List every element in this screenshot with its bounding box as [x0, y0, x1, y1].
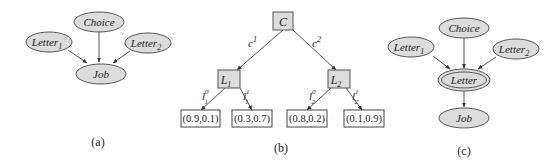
caption-c: (c) [457, 144, 470, 158]
leaf-4: (0.1,0.9) [344, 110, 384, 127]
node-c-letter1: Letter1 [388, 37, 434, 57]
node-c-job-label: Job [456, 112, 472, 124]
node-c-letter-deterministic: Letter [438, 69, 490, 91]
edge-label-l1-0: l01 [202, 88, 209, 106]
edge-label-l2-0: l02 [309, 88, 316, 106]
leaf-3-label: (0.8,0.2) [289, 113, 325, 125]
leaf-1: (0.9,0.1) [181, 110, 220, 127]
node-root-c: C [273, 12, 293, 30]
edge-c-l1 [237, 30, 283, 70]
node-c-letter-label: Letter [450, 74, 478, 86]
edge-letter1-job [68, 50, 87, 63]
figure-canvas: Choice Letter1 Letter2 Job (a) c1 c2 l01… [0, 0, 560, 167]
node-choice: Choice [74, 12, 124, 32]
edge-label-l2-1: l12 [352, 88, 359, 106]
node-l1: L1 [218, 70, 240, 89]
node-l2: L2 [328, 70, 350, 89]
edge-letter1-letter [433, 56, 450, 69]
edge-letter2-job [113, 51, 130, 63]
node-choice-label: Choice [83, 16, 114, 28]
edge-c-l2 [293, 30, 336, 70]
edge-letter2-letter [478, 57, 496, 69]
caption-b: (b) [274, 141, 288, 155]
edge-label-c1: c1 [248, 35, 257, 49]
node-job-label: Job [93, 68, 109, 80]
leaf-2: (0.3,0.7) [232, 110, 272, 127]
caption-a: (a) [91, 135, 104, 149]
node-c-choice-label: Choice [448, 22, 479, 34]
panel-b: c1 c2 l01 l11 l02 l12 C L1 L2 (0.9,0.1) [181, 12, 384, 155]
node-c-job: Job [439, 108, 489, 128]
node-letter2: Letter2 [125, 33, 171, 53]
node-c-letter2: Letter2 [493, 39, 539, 59]
node-letter1: Letter1 [26, 32, 72, 52]
edge-label-c2: c2 [312, 35, 321, 49]
leaf-3: (0.8,0.2) [287, 110, 327, 127]
node-c-choice: Choice [439, 18, 489, 38]
edge-label-l1-1: l11 [243, 88, 249, 106]
leaf-2-label: (0.3,0.7) [234, 113, 270, 125]
panel-c: Choice Letter1 Letter2 Letter Job (c) [388, 18, 539, 158]
leaf-4-label: (0.1,0.9) [346, 113, 382, 125]
node-job: Job [76, 64, 126, 84]
leaf-1-label: (0.9,0.1) [183, 113, 219, 125]
panel-a: Choice Letter1 Letter2 Job (a) [26, 12, 171, 149]
node-root-label: C [279, 15, 288, 29]
